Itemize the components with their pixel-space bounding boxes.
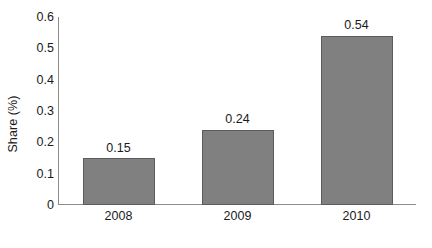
bar-value-label: 0.24 <box>202 113 274 126</box>
bar-group: 0.24 <box>202 17 274 205</box>
bar <box>321 36 393 205</box>
y-axis-tick-label: 0.2 <box>2 136 54 149</box>
y-axis-tick-label: 0.6 <box>2 11 54 24</box>
y-axis-tick-label: 0.4 <box>2 73 54 86</box>
bar-chart: Share (%) 00.10.20.30.40.50.6 0.150.240.… <box>0 0 432 248</box>
bar-group: 0.15 <box>83 17 155 205</box>
x-axis-tick-label: 2009 <box>178 210 297 223</box>
bar-group: 0.54 <box>321 17 393 205</box>
plot-area: 0.150.240.54 <box>59 17 416 205</box>
bar-value-label: 0.15 <box>83 142 155 155</box>
y-axis-tick-label: 0.3 <box>2 105 54 118</box>
bar <box>202 130 274 205</box>
y-axis-tick-label: 0.1 <box>2 167 54 180</box>
y-axis-tick-label: 0.5 <box>2 42 54 55</box>
y-axis-tick-labels: 00.10.20.30.40.50.6 <box>0 0 54 248</box>
x-axis-tick-labels: 200820092010 <box>59 210 416 234</box>
x-axis-tick-label: 2008 <box>59 210 178 223</box>
y-axis-tick-label: 0 <box>2 199 54 212</box>
x-axis-tick-label: 2010 <box>297 210 416 223</box>
bar-value-label: 0.54 <box>321 19 393 32</box>
bar <box>83 158 155 205</box>
